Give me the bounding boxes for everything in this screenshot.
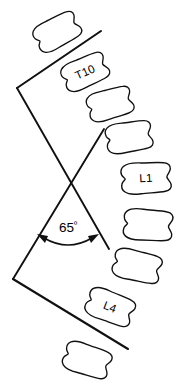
degree-symbol-icon: º [74, 219, 77, 229]
spine-diagram-root: T10 L1 L4 [0, 0, 195, 388]
vertebra-l2-outline [123, 208, 174, 243]
vertebra-t12 [104, 119, 154, 156]
angle-value-label: 65º [59, 219, 77, 235]
angle-measure-arc [44, 238, 92, 245]
upper-perpendicular-line [13, 129, 104, 279]
spine-diagram-canvas: T10 L1 L4 [0, 0, 195, 388]
vertebra-label-l1: L1 [139, 172, 153, 185]
angle-arc-arrow-right [88, 234, 99, 243]
vertebra-t11-outline [84, 84, 135, 125]
vertebra-t11 [84, 84, 135, 125]
vertebra-l5-outline [60, 338, 114, 381]
vertebra-l2 [123, 208, 174, 243]
vertebra-l3-outline [110, 246, 163, 286]
vertebra-l5 [60, 338, 114, 381]
vertebra-t12-outline [104, 119, 154, 156]
angle-number: 65 [59, 220, 74, 235]
vertebra-l3 [110, 246, 163, 286]
